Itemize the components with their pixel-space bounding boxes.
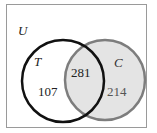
intersection-count: 281: [71, 65, 91, 80]
venn-diagram: U T C 281 107 214: [0, 0, 157, 133]
set-c-label: C: [114, 55, 123, 70]
universe-label: U: [18, 23, 29, 38]
set-t-label: T: [34, 54, 42, 69]
set-t-only-count: 107: [38, 84, 58, 99]
set-c-only-count: 214: [107, 84, 127, 99]
